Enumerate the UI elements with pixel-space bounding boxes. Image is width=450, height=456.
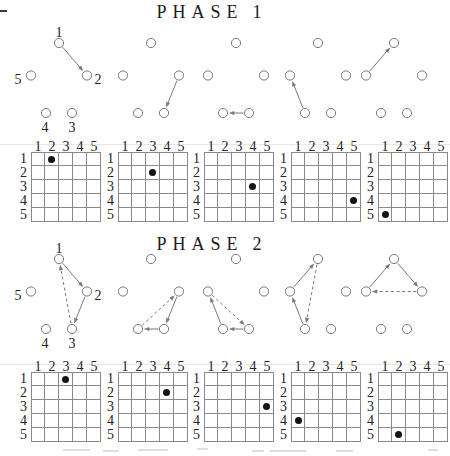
grid-cell-r1-c5 [87, 152, 101, 166]
grid-cell-r1-c5 [434, 152, 448, 166]
grid-row-header: 5 [277, 428, 291, 442]
grid-cell-r5-c5 [87, 428, 101, 442]
grid-cell-r2-c3 [59, 386, 73, 400]
grid-cell-r3-c2 [218, 180, 232, 194]
grid-row-header: 2 [277, 386, 291, 400]
grid-cell-r4-c2 [392, 194, 406, 208]
grid-cell-r1-c1 [378, 152, 392, 166]
grid-cell-r4-c2 [45, 414, 59, 428]
grid-row-header: 1 [17, 152, 31, 166]
node-5-circle [361, 287, 370, 296]
grid-cell-r2-c2 [45, 166, 59, 180]
grid-cell-r3-c1 [378, 180, 392, 194]
grid-row-header: 1 [104, 152, 118, 166]
grid-cell-r5-c1 [204, 208, 218, 222]
grid-cell-r1-c2 [45, 152, 59, 166]
node-1-circle [313, 38, 322, 47]
grid-cell-r5-c2 [132, 208, 146, 222]
grid-cell-r2-c5 [434, 166, 448, 180]
node-4-circle [41, 108, 50, 117]
node-3-circle [244, 324, 253, 333]
node-1-circle [389, 38, 398, 47]
grid-col-header: 2 [305, 140, 319, 152]
grid-cell-r2-c4 [246, 386, 260, 400]
node-2-label: 2 [95, 72, 102, 87]
grid-cell-r1-c2 [132, 152, 146, 166]
phase-2-grid-5: 1234512345 [364, 360, 448, 442]
grid-cell-r2-c4 [73, 166, 87, 180]
grid-cell-r2-c3 [319, 166, 333, 180]
grid-cell-r3-c5 [174, 180, 188, 194]
grid-cell-r4-c4 [333, 194, 347, 208]
grid-cell-r5-c4 [160, 208, 174, 222]
grid-row-header: 3 [104, 400, 118, 414]
grid-row-header: 4 [364, 194, 378, 208]
grid-row-header: 5 [17, 428, 31, 442]
clipped-caption-fragment [270, 450, 306, 452]
clipped-caption-fragment [138, 449, 168, 451]
grid-row-header: 3 [17, 400, 31, 414]
grid-cell-r1-c4 [160, 372, 174, 386]
grid-cell-r5-c2 [45, 208, 59, 222]
grid-cell-r1-c1 [204, 152, 218, 166]
node-1-circle [231, 254, 240, 263]
grid-col-header: 5 [174, 140, 188, 152]
grid-row-header: 5 [190, 428, 204, 442]
node-1-circle [146, 38, 155, 47]
grid-cell-r3-c4 [160, 180, 174, 194]
grid-cell-r4-c2 [132, 194, 146, 208]
phase-1-title-number: 1 [253, 2, 268, 22]
grid-row-header: 1 [104, 372, 118, 386]
grid-cell-r3-c4 [246, 180, 260, 194]
grid-row-header: 1 [277, 372, 291, 386]
grid-cell-r1-c3 [406, 152, 420, 166]
grid-cell-r3-c3 [406, 400, 420, 414]
grid-col-header: 4 [246, 360, 260, 372]
grid-cell-r4-c5 [260, 194, 274, 208]
grid-row-header: 3 [104, 180, 118, 194]
grid-cell-r4-c5 [174, 194, 188, 208]
grid-cell-r5-c2 [392, 428, 406, 442]
grid-col-header: 1 [31, 360, 45, 372]
grid-cell-r1-c5 [260, 372, 274, 386]
grid-cell-r4-c3 [232, 194, 246, 208]
node-1-circle [231, 38, 240, 47]
grid-cell-r2-c4 [160, 386, 174, 400]
grid-cell-r2-c1 [291, 166, 305, 180]
grid-cell-r1-c2 [305, 152, 319, 166]
grid-col-header: 1 [118, 140, 132, 152]
grid-cell-r4-c4 [246, 194, 260, 208]
grid-cell-r3-c1 [31, 400, 45, 414]
grid-col-header: 2 [45, 360, 59, 372]
grid-col-header: 5 [434, 140, 448, 152]
matrix-dot [249, 183, 256, 190]
arrow-1-to-2-solid [63, 47, 84, 71]
grid-cell-r4-c4 [160, 194, 174, 208]
node-3-label: 3 [69, 336, 76, 351]
grid-cell-r1-c4 [73, 152, 87, 166]
grid-cell-r3-c1 [204, 180, 218, 194]
grid-cell-r4-c5 [347, 414, 361, 428]
arrow-4-to-5-solid [292, 297, 303, 324]
grid-cell-r2-c2 [45, 386, 59, 400]
grid-cell-r1-c1 [31, 372, 45, 386]
grid-cell-r1-c4 [333, 372, 347, 386]
grid-cell-r4-c3 [406, 194, 420, 208]
phase-2-diagram-2 [106, 242, 196, 350]
matrix-dot [163, 389, 170, 396]
grid-col-header: 1 [378, 140, 392, 152]
grid-cell-r3-c5 [87, 180, 101, 194]
grid-cell-r3-c1 [118, 400, 132, 414]
grid-row-header: 2 [364, 166, 378, 180]
grid-cell-r4-c4 [420, 414, 434, 428]
grid-col-header: 2 [132, 360, 146, 372]
arrow-1-to-2-solid [63, 263, 84, 287]
grid-cell-r5-c3 [59, 208, 73, 222]
arrow-2-to-3-solid [166, 297, 177, 324]
grid-cell-r2-c5 [260, 166, 274, 180]
clipped-caption-fragment [336, 450, 353, 452]
grid-col-header: 3 [406, 140, 420, 152]
grid-col-header: 5 [434, 360, 448, 372]
grid-cell-r1-c2 [218, 152, 232, 166]
phase-1-grid-5: 1234512345 [364, 140, 448, 222]
